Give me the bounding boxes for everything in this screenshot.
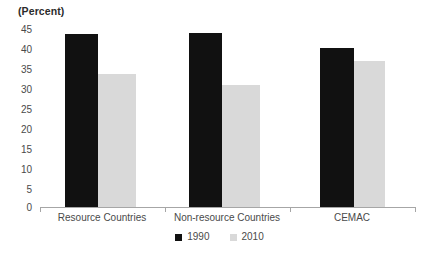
bar-2010-cemac	[354, 61, 385, 208]
bar-chart: (Percent) 45 40 35 30 25 20 15 10 5 0 Re…	[0, 0, 439, 255]
y-tick-label: 35	[21, 65, 32, 75]
y-tick-label: 40	[21, 45, 32, 55]
chart-legend: 1990 2010	[0, 232, 439, 242]
legend-item-1990: 1990	[175, 232, 209, 242]
y-tick-label: 30	[21, 85, 32, 95]
category-axis-line	[40, 207, 416, 208]
category-label-cemac: CEMAC	[334, 212, 370, 223]
axis-tick	[40, 207, 41, 212]
legend-swatch-icon	[230, 234, 237, 241]
category-label-non-resource-countries: Non-resource Countries	[174, 212, 280, 223]
bar-2010-non-resource-countries	[222, 85, 260, 208]
y-tick-label: 0	[26, 203, 32, 213]
y-tick-label: 20	[21, 125, 32, 135]
y-tick-label: 5	[26, 185, 32, 195]
chart-title: (Percent)	[18, 5, 64, 17]
y-axis: 45 40 35 30 25 20 15 10 5 0	[0, 27, 36, 208]
category-label-resource-countries: Resource Countries	[58, 212, 146, 223]
bar-1990-non-resource-countries	[189, 33, 222, 208]
axis-tick	[165, 207, 166, 212]
y-tick-label: 15	[21, 145, 32, 155]
axis-tick	[415, 207, 416, 212]
y-tick-label: 25	[21, 105, 32, 115]
legend-item-2010: 2010	[230, 232, 264, 242]
bar-1990-resource-countries	[65, 34, 98, 208]
y-tick-label: 10	[21, 165, 32, 175]
legend-label: 1990	[187, 232, 209, 242]
legend-swatch-icon	[175, 234, 182, 241]
plot-area	[40, 27, 416, 208]
bar-1990-cemac	[320, 48, 354, 208]
legend-label: 2010	[242, 232, 264, 242]
axis-tick	[290, 207, 291, 212]
bar-2010-resource-countries	[98, 74, 136, 208]
y-tick-label: 45	[21, 25, 32, 35]
